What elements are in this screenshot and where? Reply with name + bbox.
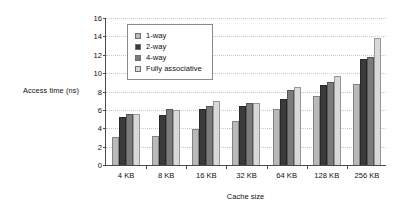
y-tick-label: 14 xyxy=(94,32,102,41)
legend-item: 4-way xyxy=(135,52,202,63)
x-tick-label: 64 KB xyxy=(276,171,297,180)
bar xyxy=(173,110,180,165)
bar xyxy=(360,59,367,165)
bar xyxy=(232,121,239,165)
bar xyxy=(206,106,213,165)
bar xyxy=(280,99,287,165)
bar xyxy=(367,57,374,165)
x-tick-label: 16 KB xyxy=(196,171,217,180)
legend-label: Fully associative xyxy=(146,64,202,73)
x-tick-mark xyxy=(146,165,147,169)
bar xyxy=(159,115,166,165)
bar xyxy=(239,106,246,165)
x-tick-label: 8 KB xyxy=(158,171,174,180)
x-tick-mark xyxy=(186,165,187,169)
bar xyxy=(133,114,140,165)
legend-swatch-icon xyxy=(135,66,141,72)
x-tick-label: 128 KB xyxy=(314,171,339,180)
bar-group xyxy=(226,18,266,165)
legend-swatch-icon xyxy=(135,55,141,61)
x-tick-label: 4 KB xyxy=(118,171,134,180)
legend-item: Fully associative xyxy=(135,63,202,74)
bar xyxy=(246,103,253,165)
y-tick-label: 16 xyxy=(94,14,102,23)
legend-item: 1-way xyxy=(135,30,202,41)
x-tick-mark xyxy=(307,165,308,169)
legend-label: 2-way xyxy=(146,42,166,51)
y-tick-label: 12 xyxy=(94,50,102,59)
chart-legend: 1-way2-way4-wayFully associative xyxy=(127,24,213,80)
bar xyxy=(374,38,381,165)
bar xyxy=(253,103,260,165)
x-tick-label: 256 KB xyxy=(354,171,379,180)
bar xyxy=(112,137,119,165)
legend-swatch-icon xyxy=(135,33,141,39)
x-axis-title: Cache size xyxy=(105,192,386,201)
bar xyxy=(166,109,173,165)
bar xyxy=(119,117,126,165)
x-tick-label: 32 KB xyxy=(236,171,257,180)
bar xyxy=(320,85,327,165)
bar xyxy=(334,76,341,165)
y-tick-mark xyxy=(103,165,106,166)
x-tick-mark xyxy=(267,165,268,169)
y-tick-label: 0 xyxy=(98,161,102,170)
legend-item: 2-way xyxy=(135,41,202,52)
bar xyxy=(287,90,294,165)
legend-swatch-icon xyxy=(135,44,141,50)
y-axis-title: Access time (ns) xyxy=(8,86,94,95)
y-tick-label: 10 xyxy=(94,69,102,78)
y-tick-label: 6 xyxy=(98,105,102,114)
bar xyxy=(294,87,301,165)
bar xyxy=(353,84,360,165)
y-tick-label: 8 xyxy=(98,87,102,96)
legend-label: 1-way xyxy=(146,31,166,40)
bar xyxy=(199,109,206,165)
bar-group xyxy=(347,18,387,165)
y-tick-label: 4 xyxy=(98,124,102,133)
bar xyxy=(313,96,320,165)
y-tick-label: 2 xyxy=(98,142,102,151)
x-tick-mark xyxy=(347,165,348,169)
bar xyxy=(192,129,199,165)
bar xyxy=(126,114,133,165)
bar xyxy=(327,82,334,165)
chart-figure: Access time (ns) 0246810121416 4 KB8 KB1… xyxy=(0,0,404,220)
bar xyxy=(152,136,159,165)
legend-label: 4-way xyxy=(146,53,166,62)
x-tick-mark xyxy=(226,165,227,169)
bar-group xyxy=(267,18,307,165)
bar xyxy=(273,109,280,166)
bar xyxy=(213,101,220,165)
bar-group xyxy=(307,18,347,165)
